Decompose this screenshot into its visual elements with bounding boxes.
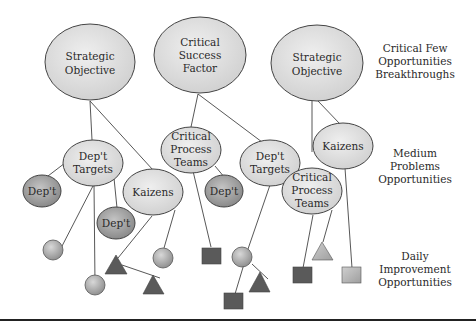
- top-node-strategic-objective-1: Strategic Objective: [45, 24, 135, 100]
- bottom-rule: [0, 319, 476, 321]
- svg-text:Improvement: Improvement: [379, 263, 451, 275]
- svg-text:Objective: Objective: [65, 64, 115, 76]
- top-node-strategic-objective-2: Strategic Objective: [271, 25, 363, 101]
- daily-shapes: [43, 240, 361, 309]
- hierarchy-diagram: Strategic Objective Critical Success Fac…: [0, 0, 476, 328]
- svg-text:Dep't: Dep't: [210, 185, 239, 197]
- svg-text:Process: Process: [170, 143, 211, 155]
- square-shape: [202, 248, 221, 264]
- square-shape: [342, 267, 361, 283]
- svg-text:Critical: Critical: [292, 171, 332, 183]
- mid-node-kaizens-1: Kaizens: [123, 169, 183, 215]
- triangle-shape: [249, 272, 270, 292]
- svg-text:Kaizens: Kaizens: [132, 186, 173, 198]
- svg-text:Process: Process: [291, 184, 332, 196]
- svg-text:Critical Few: Critical Few: [383, 42, 448, 54]
- svg-text:Targets: Targets: [250, 163, 290, 175]
- triangle-shape: [143, 275, 164, 294]
- svg-text:Dep't: Dep't: [79, 150, 108, 162]
- triangle-shape: [105, 255, 127, 274]
- circle-shape: [43, 240, 63, 260]
- svg-text:Success: Success: [179, 49, 222, 61]
- svg-text:Medium: Medium: [393, 147, 437, 159]
- svg-text:Opportunities: Opportunities: [378, 55, 452, 67]
- mid-node-critical-process-teams-2: Critical Process Teams: [282, 168, 342, 214]
- svg-text:Teams: Teams: [174, 156, 208, 168]
- svg-text:Critical: Critical: [171, 130, 211, 142]
- svg-text:Breakthroughs: Breakthroughs: [375, 68, 455, 80]
- svg-text:Strategic: Strategic: [65, 50, 114, 62]
- side-label-daily: Daily Improvement Opportunities: [378, 250, 452, 288]
- side-label-top: Critical Few Opportunities Breakthroughs: [375, 42, 455, 80]
- top-node-critical-success-factor: Critical Success Factor: [154, 17, 246, 93]
- circle-shape: [153, 248, 173, 268]
- triangle-shape: [312, 242, 333, 260]
- mid-node-dept-3: Dep't: [205, 175, 243, 207]
- mid-node-dept-1: Dep't: [23, 175, 61, 207]
- mid-node-dept-targets-1: Dep't Targets: [63, 140, 123, 186]
- svg-text:Critical: Critical: [180, 36, 220, 48]
- square-shape: [293, 267, 312, 283]
- svg-text:Strategic: Strategic: [292, 51, 341, 63]
- svg-text:Problems: Problems: [390, 160, 440, 172]
- svg-text:Teams: Teams: [295, 197, 329, 209]
- mid-node-kaizens-2: Kaizens: [313, 123, 373, 169]
- svg-text:Targets: Targets: [73, 163, 113, 175]
- svg-text:Kaizens: Kaizens: [322, 140, 363, 152]
- circle-shape: [232, 247, 252, 267]
- circle-shape: [85, 275, 105, 295]
- svg-text:Daily: Daily: [401, 250, 428, 262]
- svg-text:Opportunities: Opportunities: [378, 276, 452, 288]
- svg-text:Opportunities: Opportunities: [378, 173, 452, 185]
- svg-text:Objective: Objective: [292, 65, 342, 77]
- svg-text:Dep't: Dep't: [28, 185, 57, 197]
- side-label-medium: Medium Problems Opportunities: [378, 147, 452, 185]
- svg-text:Dep't: Dep't: [256, 150, 285, 162]
- svg-text:Factor: Factor: [183, 62, 218, 74]
- mid-node-dept-2: Dep't: [97, 207, 135, 239]
- svg-text:Dep't: Dep't: [102, 217, 131, 229]
- square-shape: [224, 293, 243, 309]
- mid-node-critical-process-teams-1: Critical Process Teams: [161, 127, 221, 173]
